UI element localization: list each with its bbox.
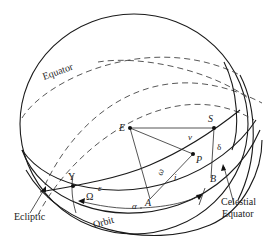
label-omega-small: ω [154, 167, 166, 176]
label-epsilon: ε [98, 183, 102, 193]
label-b: B [210, 173, 216, 184]
point-vernal [71, 184, 75, 188]
label-a: A [144, 197, 152, 208]
sphere-inner-right-arc [238, 75, 253, 200]
ecliptic-front-arc [22, 120, 256, 190]
label-celestial: Celestial [221, 196, 256, 207]
label-Omega: Ω [86, 191, 93, 202]
label-delta: δ [217, 142, 221, 152]
celestial-sphere-diagram: Equator E S P ν δ B A ω i Υ ε Ω α Eclipt… [0, 0, 269, 252]
line-s-b [211, 128, 214, 178]
point-s [212, 126, 216, 130]
label-orbit: Orbit [92, 214, 115, 230]
label-alpha: α [132, 201, 137, 211]
ecliptic-pointer-line [30, 188, 45, 213]
line-e-p [130, 128, 193, 154]
ecliptic-back-arc [45, 83, 262, 185]
label-s: S [208, 113, 213, 124]
point-p [191, 152, 195, 156]
line-a-p [150, 154, 193, 199]
label-ecliptic: Ecliptic [14, 211, 46, 222]
meridian-front-arc [224, 62, 237, 150]
point-e [128, 126, 132, 130]
label-equator: Equator [41, 60, 75, 81]
omega-arrowhead [78, 198, 85, 204]
label-equator-bottom: Equator [222, 208, 254, 219]
label-p: P [195, 154, 202, 165]
label-e: E [118, 122, 125, 133]
celestial-equator-pointer-head [221, 164, 226, 171]
label-nu: ν [188, 132, 192, 142]
label-i: i [174, 172, 177, 182]
label-vernal: Υ [68, 171, 75, 182]
